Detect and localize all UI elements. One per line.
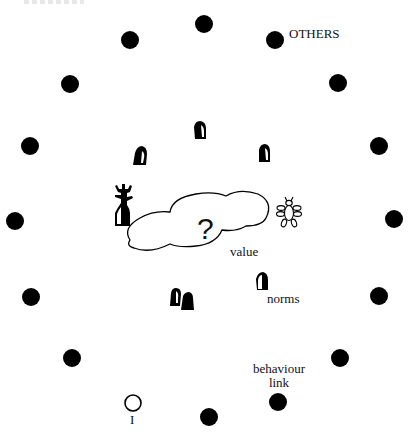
insect-figure-icon: [277, 197, 302, 228]
others-dot: [61, 75, 79, 93]
stone-icon: [259, 144, 270, 162]
others-dot: [370, 287, 388, 305]
label-behaviour-line: behaviour: [249, 362, 309, 376]
others-dot: [269, 393, 287, 411]
others-dot: [200, 408, 218, 426]
stone-icon: [170, 288, 181, 306]
label-self-i: I: [130, 413, 134, 427]
others-dot: [329, 74, 347, 92]
others-dot: [63, 349, 81, 367]
others-dot: [385, 210, 403, 228]
others-dot: [331, 349, 349, 367]
others-dot: [6, 212, 24, 230]
label-others: OTHERS: [289, 27, 340, 41]
others-dot: [21, 137, 39, 155]
label-behaviour-link: behaviour link: [249, 362, 309, 390]
label-value: value: [230, 245, 258, 259]
self-node: [125, 395, 141, 411]
human-figure-icon: [115, 184, 133, 226]
label-norms: norms: [267, 292, 300, 306]
cloud-question-mark: ?: [197, 214, 214, 244]
stone-icon: [194, 121, 206, 139]
stone-icon: [181, 292, 194, 310]
others-dot: [370, 137, 388, 155]
others-dot: [22, 288, 40, 306]
others-dot: [195, 15, 213, 33]
stone-icon: [133, 146, 147, 165]
faint-scan-artifact: [24, 0, 84, 4]
stone-icon: [256, 272, 268, 290]
others-dot: [121, 31, 139, 49]
label-link-line: link: [249, 376, 309, 390]
others-dot: [266, 31, 284, 49]
